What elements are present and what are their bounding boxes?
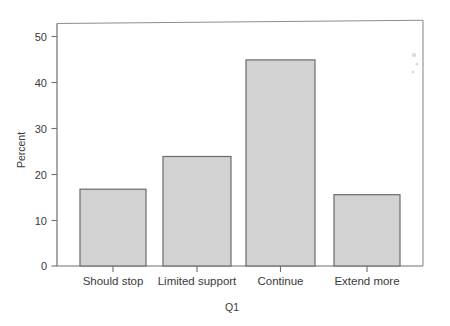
x-tick-label-continue: Continue <box>257 275 303 287</box>
scan-artifacts <box>412 53 419 74</box>
y-tick-label-50: 50 <box>35 31 47 43</box>
bar-chart-figure: 50 40 30 20 10 0 Percent Should stop Lim… <box>0 0 450 326</box>
y-tick-label-10: 10 <box>35 215 47 227</box>
x-tick-label-extend-more: Extend more <box>334 275 399 287</box>
bar-limited-support[interactable] <box>163 157 231 267</box>
bar-should-stop[interactable] <box>80 189 146 266</box>
y-axis-title: Percent <box>15 132 27 168</box>
x-tick-label-limited-support: Limited support <box>158 275 237 287</box>
x-axis-title: Q1 <box>225 301 239 313</box>
x-tick-label-should-stop: Should stop <box>83 275 144 287</box>
x-axis-category-labels: Should stop Limited support Continue Ext… <box>83 275 400 287</box>
y-tick-label-0: 0 <box>41 260 47 272</box>
y-tick-label-30: 30 <box>35 123 47 135</box>
scan-speck-1 <box>412 53 416 57</box>
y-tick-label-40: 40 <box>35 77 47 89</box>
frame-top-border <box>57 20 423 23</box>
y-axis-tick-labels: 50 40 30 20 10 0 <box>35 31 47 273</box>
chart-canvas: 50 40 30 20 10 0 Percent Should stop Lim… <box>0 0 450 326</box>
bar-continue[interactable] <box>246 60 315 266</box>
scan-speck-3 <box>412 71 415 74</box>
x-axis-ticks <box>113 266 367 272</box>
scan-speck-2 <box>415 62 418 65</box>
y-axis-ticks <box>52 37 58 267</box>
bars-group <box>80 60 400 266</box>
y-tick-label-20: 20 <box>35 169 47 181</box>
bar-extend-more[interactable] <box>334 195 400 266</box>
